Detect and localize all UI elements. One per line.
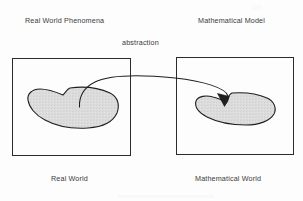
label-mathematical-model: Mathematical Model [198,16,265,25]
label-abstraction: abstraction [122,38,159,47]
label-real-world: Real World [51,174,88,183]
diagram-canvas [0,0,303,201]
mathematical-model-blob [196,93,276,125]
abstraction-diagram: Real World Phenomena Mathematical Model … [0,0,303,201]
label-real-world-phenomena: Real World Phenomena [25,16,104,25]
label-mathematical-world: Mathematical World [195,174,261,183]
real-world-phenomena-blob [28,87,118,128]
